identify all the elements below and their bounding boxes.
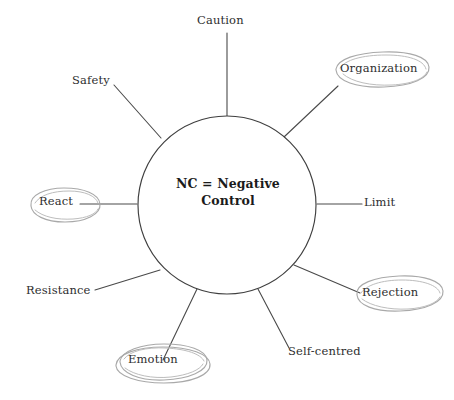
spoke-line-resistance bbox=[95, 270, 160, 290]
hub-label-line2: Control bbox=[152, 193, 304, 210]
node-label-limit: Limit bbox=[364, 196, 395, 209]
node-label-self-centred: Self-centred bbox=[288, 345, 361, 358]
node-label-organization: Organization bbox=[340, 62, 418, 75]
node-label-rejection: Rejection bbox=[362, 286, 418, 299]
node-label-safety: Safety bbox=[72, 74, 110, 87]
spoke-line-safety bbox=[114, 85, 161, 138]
node-label-resistance: Resistance bbox=[26, 284, 91, 297]
spoke-line-self-centred bbox=[258, 289, 289, 348]
hub-label: NC = Negative Control bbox=[152, 176, 304, 209]
spoke-line-organization bbox=[284, 86, 338, 137]
spoke-diagram-canvas: NC = Negative Control Caution Organizati… bbox=[0, 0, 454, 400]
hub-label-line1: NC = Negative bbox=[152, 176, 304, 193]
node-label-emotion: Emotion bbox=[128, 353, 178, 366]
node-label-react: React bbox=[39, 195, 73, 208]
spoke-line-rejection bbox=[294, 265, 360, 293]
node-label-caution: Caution bbox=[197, 14, 244, 27]
